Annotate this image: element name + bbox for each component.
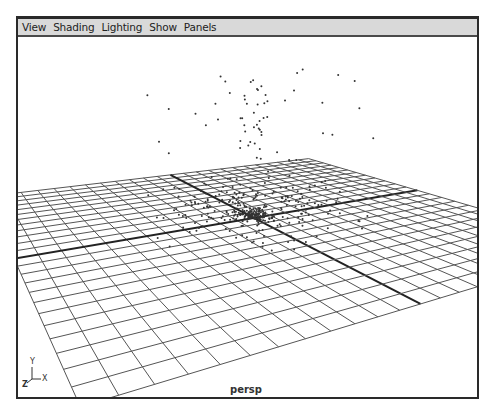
menu-lighting[interactable]: Lighting [101,21,142,33]
3d-viewport[interactable]: Y Z X persp [18,37,477,397]
panel-menubar: View Shading Lighting Show Panels [18,19,477,37]
gizmo-z-label: Z [22,380,28,389]
perspective-viewport-panel: View Shading Lighting Show Panels Y Z X … [16,16,479,399]
scene-canvas[interactable] [18,37,477,397]
axis-gizmo: Y Z X [22,363,48,389]
gizmo-y-label: Y [30,357,35,366]
menu-shading[interactable]: Shading [53,21,94,33]
camera-name-label: persp [230,384,262,395]
menu-panels[interactable]: Panels [184,21,217,33]
menu-show[interactable]: Show [149,21,177,33]
gizmo-x-label: X [42,374,47,383]
menu-view[interactable]: View [22,21,46,33]
